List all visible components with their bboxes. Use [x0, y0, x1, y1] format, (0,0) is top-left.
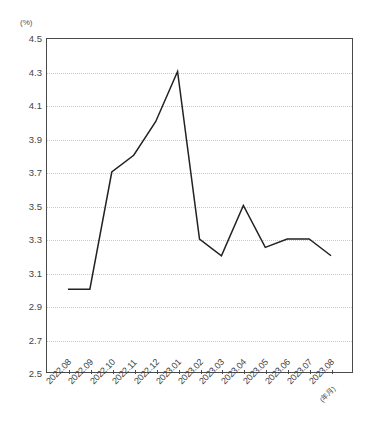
line-chart: (%) 4.54.34.13.93.73.53.33.12.92.72.5 20… — [0, 0, 368, 438]
x-axis-tick-labels: 2022.082022.092022.102022.112022.122023.… — [0, 0, 368, 438]
x-axis-unit-note: (年月) — [317, 384, 337, 404]
